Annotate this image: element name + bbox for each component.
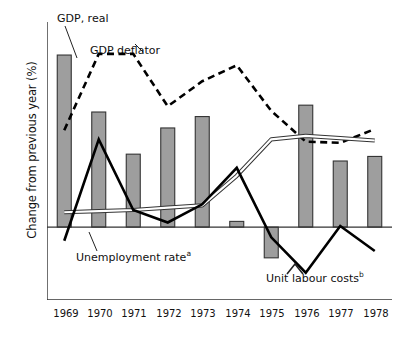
gdp-deflator-line — [64, 54, 375, 143]
bar-1973 — [195, 117, 209, 228]
bar-1974 — [230, 221, 244, 227]
gdp-deflator-leader-icon — [135, 44, 143, 52]
bar-1978 — [368, 156, 382, 227]
y-axis-label: Change from previous year (%) — [25, 35, 39, 265]
x-tick-1977: 1977 — [321, 308, 361, 319]
unemployment-leader-icon — [89, 232, 97, 251]
x-tick-1975: 1975 — [252, 308, 292, 319]
plot-area — [47, 22, 392, 300]
bar-1971 — [126, 154, 140, 227]
x-tick-1971: 1971 — [114, 308, 154, 319]
bar-1976 — [299, 105, 313, 227]
gdp-real-leader-icon — [65, 26, 77, 58]
bar-1977 — [333, 161, 347, 227]
bar-1972 — [161, 128, 175, 227]
chart-figure: Change from previous year (%) +8 +6 +4 +… — [0, 0, 402, 342]
unit-labour-costs-line — [64, 139, 375, 272]
chart-canvas — [47, 22, 392, 300]
x-tick-1973: 1973 — [183, 308, 223, 319]
bar-1969 — [57, 55, 71, 227]
line-series — [64, 54, 375, 273]
unemployment-rate-line-outline — [64, 136, 375, 212]
unemployment-rate-line — [64, 136, 375, 212]
x-tick-1978: 1978 — [356, 308, 396, 319]
